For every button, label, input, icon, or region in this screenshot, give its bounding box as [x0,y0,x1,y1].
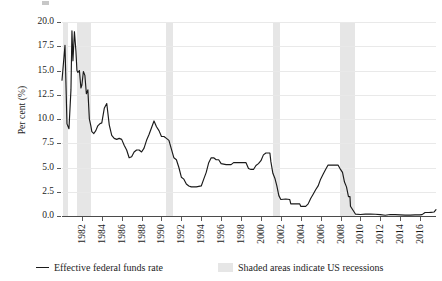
figure-container: Per cent (%) 0.02.55.07.510.012.515.017.… [0,0,442,281]
x-axis-tick-label: 2002 [276,224,286,244]
y-axis-tick-labels: 0.02.55.07.510.012.515.017.520.0 [0,22,58,216]
x-axis-tick-mark [321,217,322,221]
y-axis-tick-label: 5.0 [42,163,54,173]
x-axis-tick-mark [82,217,83,221]
x-axis-tick-label: 1984 [97,224,107,244]
x-axis-tick-label: 1996 [216,224,226,244]
y-axis-tick-label: 2.5 [42,187,54,197]
x-axis-tick-label: 1986 [117,224,127,244]
figure-top-artifact [42,1,49,5]
x-axis-tick-label: 1998 [236,224,246,244]
x-axis-tick-label: 1988 [137,224,147,244]
x-axis-tick-mark [341,217,342,221]
x-axis-tick-mark [181,217,182,221]
y-axis-tick-mark [57,216,61,217]
y-axis-tick-mark [57,143,61,144]
x-axis-tick-mark [201,217,202,221]
legend-band-label: Shaded areas indicate US recessions [238,262,384,273]
x-axis-tick-mark [301,217,302,221]
y-axis-tick-mark [57,46,61,47]
y-axis-tick-mark [57,95,61,96]
y-axis-tick-mark [57,22,61,23]
x-axis-tick-label: 2004 [296,224,306,244]
x-axis-tick-mark [261,217,262,221]
y-axis-tick-mark [57,192,61,193]
y-axis-tick-mark [57,119,61,120]
band-swatch-icon [218,263,233,272]
x-axis-tick-label: 1992 [176,224,186,244]
x-axis-tick-mark [221,217,222,221]
x-axis-tick-label: 2012 [375,224,385,244]
legend: Effective federal funds rate Shaded area… [0,262,442,278]
x-axis-tick-label: 2000 [256,224,266,244]
x-axis-tick-mark [241,217,242,221]
x-axis-tick-mark [420,217,421,221]
x-axis-tick-mark [142,217,143,221]
plot-area [62,22,436,216]
x-axis-tick-label: 2014 [395,224,405,244]
x-axis-tick-mark [122,217,123,221]
line-swatch-icon [36,267,49,268]
y-axis-tick-label: 0.0 [42,211,54,221]
y-axis-tick-mark [57,71,61,72]
x-axis-tick-label: 2010 [355,224,365,244]
x-axis-tick-label: 2006 [316,224,326,244]
x-axis-tick-mark [400,217,401,221]
x-axis-tick-label: 1994 [196,224,206,244]
x-axis-tick-mark [380,217,381,221]
y-axis-tick-label: 7.5 [42,139,54,149]
x-axis-tick-mark [281,217,282,221]
y-axis-tick-label: 20.0 [37,17,54,27]
x-axis-tick-mark [102,217,103,221]
x-axis-tick-mark [360,217,361,221]
y-axis-tick-label: 15.0 [37,66,54,76]
x-axis-tick-label: 1982 [77,224,87,244]
x-axis-tick-label: 2016 [415,224,425,244]
x-axis-tick-label: 2008 [336,224,346,244]
y-axis-tick-label: 17.5 [37,42,54,52]
y-axis-tick-label: 10.0 [37,114,54,124]
series-effective-federal-funds-rate [62,22,436,216]
x-axis-tick-mark [161,217,162,221]
legend-line-label: Effective federal funds rate [54,262,163,273]
legend-item-band: Shaded areas indicate US recessions [218,262,384,273]
y-axis-tick-label: 12.5 [37,90,54,100]
legend-item-line: Effective federal funds rate [36,262,163,273]
x-axis-tick-label: 1990 [156,224,166,244]
y-axis-tick-mark [57,168,61,169]
